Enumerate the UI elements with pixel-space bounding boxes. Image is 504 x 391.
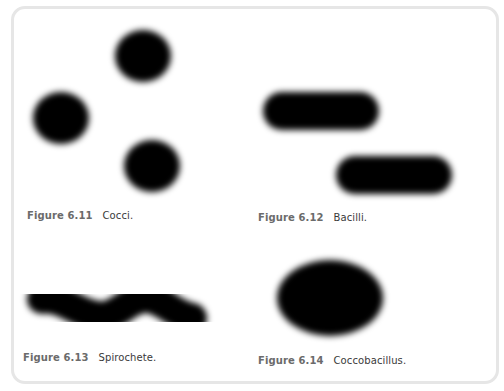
- bacilli-group: [263, 92, 452, 194]
- bacillus-shape-upper: [263, 92, 379, 130]
- caption-figure-6-11: Figure 6.11Cocci.: [27, 210, 133, 221]
- coccobacillus-shape: [277, 260, 383, 336]
- spirochete-group: [42, 298, 192, 318]
- figure-label: Figure 6.14: [258, 355, 324, 366]
- figure-label: Figure 6.12: [258, 212, 324, 223]
- figure-caption: Coccobacillus.: [334, 355, 407, 366]
- caption-figure-6-13: Figure 6.13Spirochete.: [23, 352, 156, 363]
- bacteria-illustrations: [0, 0, 504, 391]
- spirochete-shape: [42, 298, 192, 318]
- coccus-shape-top: [115, 30, 171, 82]
- cocci-group: [33, 30, 180, 192]
- bacillus-shape-lower: [336, 156, 452, 194]
- caption-figure-6-12: Figure 6.12Bacilli.: [258, 212, 367, 223]
- coccus-shape-left: [33, 92, 89, 144]
- figure-label: Figure 6.13: [23, 352, 89, 363]
- caption-figure-6-14: Figure 6.14Coccobacillus.: [258, 355, 406, 366]
- figure-label: Figure 6.11: [27, 210, 93, 221]
- figure-caption: Bacilli.: [334, 212, 368, 223]
- figure-caption: Cocci.: [103, 210, 134, 221]
- coccus-shape-bottom: [124, 140, 180, 192]
- coccobacillus-group: [277, 260, 383, 336]
- figure-caption: Spirochete.: [99, 352, 157, 363]
